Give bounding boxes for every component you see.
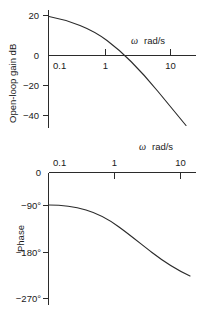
- phase-ytick-label-minus90: −90°: [21, 200, 41, 211]
- phase-omega-symbol: ω: [139, 141, 146, 152]
- phase-xaxis-units: rad/s: [152, 141, 173, 152]
- phase-yaxis-title: Phase: [15, 225, 26, 252]
- gain-ytick-label-20: 20: [28, 10, 39, 21]
- bode-plot-svg: 20 0 −20 −40 0.1 1 10 ω rad/s Open-loop …: [0, 0, 203, 325]
- phase-ytick-label-minus270: −270°: [16, 293, 41, 304]
- gain-xtick-label-0.1: 0.1: [53, 60, 66, 71]
- phase-xtick-label-1: 1: [112, 157, 117, 168]
- phase-xtick-label-10: 10: [175, 157, 186, 168]
- phase-plot: 0.1 1 10 ω rad/s 0 −90° −180° −270° Phas…: [15, 141, 196, 305]
- phase-xtick-label-0.1: 0.1: [53, 157, 66, 168]
- phase-ytick-label-0: 0: [36, 167, 41, 178]
- gain-omega-symbol: ω: [131, 35, 138, 46]
- gain-xaxis-units: rad/s: [144, 35, 165, 46]
- phase-curve: [49, 205, 190, 276]
- gain-curve: [49, 17, 186, 126]
- bode-plot-figure: 20 0 −20 −40 0.1 1 10 ω rad/s Open-loop …: [0, 0, 203, 325]
- gain-ytick-label-minus40: −40: [23, 110, 39, 121]
- gain-xtick-label-1: 1: [103, 60, 108, 71]
- gain-ytick-label-0: 0: [34, 50, 39, 61]
- gain-plot: 20 0 −20 −40 0.1 1 10 ω rad/s Open-loop …: [7, 10, 196, 128]
- gain-xtick-label-10: 10: [165, 60, 176, 71]
- gain-yaxis-title: Open-loop gain dB: [7, 44, 18, 123]
- gain-ytick-label-minus20: −20: [23, 80, 39, 91]
